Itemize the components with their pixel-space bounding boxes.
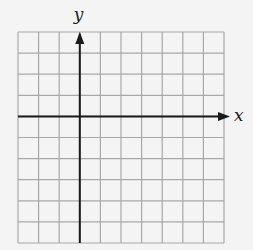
y-axis-label: y [73, 4, 84, 24]
coordinate-plane: x y [0, 0, 253, 250]
grid-lines [18, 32, 224, 243]
y-axis-arrowhead-icon [75, 32, 84, 44]
x-axis-label: x [234, 105, 244, 125]
